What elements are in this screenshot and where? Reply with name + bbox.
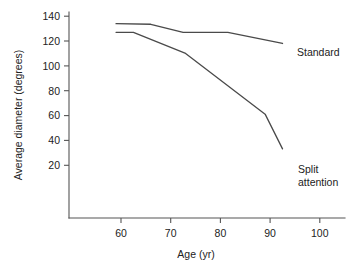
y-tick-label-80: 80 bbox=[48, 85, 60, 97]
y-axis-ticks bbox=[64, 16, 69, 165]
y-axis-title: Average diameter (degrees) bbox=[12, 50, 24, 181]
x-tick-label-70: 70 bbox=[165, 227, 177, 239]
series-line-split-attention bbox=[116, 32, 283, 149]
chart-figure: 140 120 100 80 60 40 20 60 70 80 90 100 … bbox=[0, 0, 356, 272]
y-tick-label-40: 40 bbox=[48, 134, 60, 146]
x-tick-label-90: 90 bbox=[264, 227, 276, 239]
y-tick-label-120: 120 bbox=[42, 35, 60, 47]
y-tick-label-100: 100 bbox=[42, 60, 60, 72]
x-tick-label-60: 60 bbox=[115, 227, 127, 239]
y-tick-label-20: 20 bbox=[48, 159, 60, 171]
series-line-standard bbox=[116, 24, 283, 44]
series-label-split-line1: Split bbox=[298, 163, 319, 175]
series-label-standard: Standard bbox=[297, 46, 340, 58]
x-axis-title: Age (yr) bbox=[177, 248, 214, 260]
x-tick-label-80: 80 bbox=[215, 227, 227, 239]
line-chart: 140 120 100 80 60 40 20 60 70 80 90 100 … bbox=[0, 0, 356, 272]
y-tick-label-60: 60 bbox=[48, 109, 60, 121]
x-axis-ticks bbox=[121, 218, 320, 223]
y-tick-label-140: 140 bbox=[42, 10, 60, 22]
series-label-split-line2: attention bbox=[298, 176, 338, 188]
x-tick-label-100: 100 bbox=[311, 227, 329, 239]
